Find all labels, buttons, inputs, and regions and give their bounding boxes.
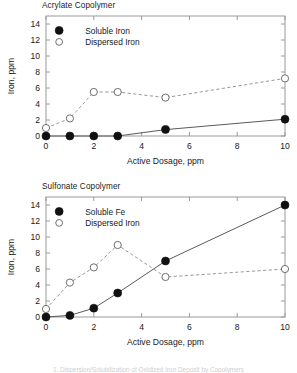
data-point-soluble-iron [281,115,289,123]
y-tick-label: 12 [30,216,40,226]
legend-label-0: Soluble Fe [85,207,125,217]
y-tick-label: 10 [30,51,40,61]
data-point-soluble-fe [114,289,122,297]
x-tick-label: 6 [187,141,192,151]
data-point-dispersed-iron [162,94,169,101]
data-point-dispersed-iron [90,88,97,95]
chart-title-1: Acrylate Copolymer [42,1,115,10]
y-tick-label: 8 [35,248,40,258]
x-tick-label: 2 [91,322,96,332]
plot-area-1: 024681012140246810Active Dosage, ppmIron… [0,10,297,182]
x-tick-label: 8 [235,141,240,151]
x-tick-label: 8 [235,322,240,332]
figure-caption: 1. Dispersion/Solubilization of Oxidized… [0,365,297,373]
legend-marker-0 [55,26,63,34]
series-line-dispersed-iron [46,78,285,128]
data-point-soluble-iron [90,132,98,140]
data-point-dispersed-iron [66,279,73,286]
legend-label-1: Dispersed Iron [85,218,140,228]
data-point-soluble-fe [90,304,98,312]
legend-label-1: Dispersed Iron [85,37,140,47]
y-tick-label: 10 [30,232,40,242]
y-tick-label: 8 [35,67,40,77]
y-tick-label: 6 [35,264,40,274]
data-point-soluble-iron [66,132,74,140]
data-point-dispersed-iron [42,305,49,312]
data-point-dispersed-iron [66,115,73,122]
y-tick-label: 14 [30,19,40,29]
data-point-soluble-iron [42,132,50,140]
legend-label-0: Soluble Iron [85,26,130,36]
x-tick-label: 10 [280,141,290,151]
y-tick-label: 14 [30,200,40,210]
data-point-soluble-iron [114,132,122,140]
y-tick-label: 2 [35,115,40,125]
data-point-soluble-fe [281,201,289,209]
chart-panel-acrylate: Acrylate Copolymer 024681012140246810Act… [0,0,297,186]
legend-marker-0 [55,207,63,215]
data-point-soluble-fe [66,311,74,319]
x-tick-label: 0 [44,141,49,151]
data-point-dispersed-iron [114,241,121,248]
data-point-soluble-fe [42,313,50,321]
x-tick-label: 6 [187,322,192,332]
chart-svg-1: 024681012140246810Active Dosage, ppmIron… [0,10,297,182]
x-axis-title: Active Dosage, ppm [127,156,204,166]
y-tick-label: 2 [35,296,40,306]
data-point-dispersed-iron [42,124,49,131]
data-point-dispersed-iron [90,264,97,271]
y-tick-label: 4 [35,280,40,290]
chart-title-2: Sulfonate Copolymer [42,182,120,191]
y-axis-title: Iron, ppm [6,239,16,275]
y-tick-label: 6 [35,83,40,93]
data-point-dispersed-iron [281,265,288,272]
data-point-soluble-iron [162,126,170,134]
legend-marker-1 [56,39,63,46]
data-point-dispersed-iron [162,273,169,280]
x-tick-label: 0 [44,322,49,332]
y-tick-label: 0 [35,131,40,141]
y-tick-label: 0 [35,312,40,322]
chart-panel-sulfonate: Sulfonate Copolymer 024681012140246810Ac… [0,181,297,367]
y-axis-title: Iron, ppm [6,58,16,94]
data-point-dispersed-iron [114,88,121,95]
x-tick-label: 4 [139,141,144,151]
data-point-dispersed-iron [281,75,288,82]
x-tick-label: 10 [280,322,290,332]
x-tick-label: 4 [139,322,144,332]
y-tick-label: 4 [35,99,40,109]
figure-container: Acrylate Copolymer 024681012140246810Act… [0,0,297,373]
data-point-soluble-fe [162,257,170,265]
x-axis-title: Active Dosage, ppm [127,337,204,347]
legend-marker-1 [56,220,63,227]
y-tick-label: 12 [30,35,40,45]
x-tick-label: 2 [91,141,96,151]
plot-area-2: 024681012140246810Active Dosage, ppmIron… [0,191,297,363]
plot-frame [46,16,285,136]
chart-svg-2: 024681012140246810Active Dosage, ppmIron… [0,191,297,363]
